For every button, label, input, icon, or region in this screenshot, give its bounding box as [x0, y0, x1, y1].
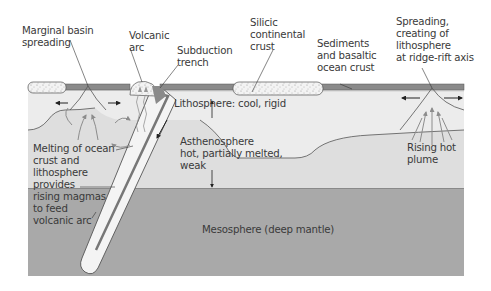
continental-crust-left	[28, 82, 66, 93]
label-mesosphere: Mesosphere (deep mantle)	[202, 224, 334, 236]
volcanic-arc	[130, 81, 157, 96]
label-spreading: Spreading, creating of lithosphere at ri…	[396, 16, 474, 64]
label-subduction-trench: Subduction trench	[177, 45, 232, 69]
label-marginal-basin: Marginal basin spreading	[22, 25, 94, 49]
label-volcanic-arc: Volcanic arc	[129, 30, 169, 54]
continental-crust-silicic	[233, 82, 323, 95]
label-silicic-crust: Silicic continental crust	[250, 17, 305, 53]
label-melting: Melting of ocean crust and lithosphere p…	[33, 143, 115, 227]
label-lithosphere: Lithosphere: cool, rigid	[174, 98, 286, 110]
label-sediments: Sediments and basaltic ocean crust	[317, 38, 377, 74]
label-rising-plume: Rising hot plume	[407, 142, 456, 166]
label-asthenosphere: Asthenosphere hot, partially melted, wea…	[180, 136, 283, 172]
